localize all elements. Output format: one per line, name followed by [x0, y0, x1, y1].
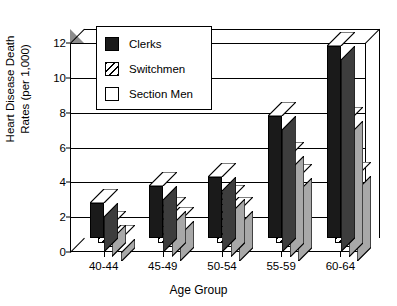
chart-container: Heart Disease Death Rates (per 1,000) 02…: [0, 0, 397, 306]
bar-side-face: [282, 116, 296, 252]
x-tick-label: 45-49: [148, 260, 177, 272]
bar-front-face: [268, 116, 282, 238]
y-tick-label: 2: [44, 211, 66, 223]
bar: [327, 46, 341, 238]
bar: [149, 186, 163, 238]
bar: [268, 116, 282, 238]
legend-label-section-men: Section Men: [129, 88, 193, 100]
x-axis-title: Age Group: [0, 283, 397, 297]
bar-top-face: [327, 32, 355, 46]
y-tick-label: 0: [44, 246, 66, 258]
bar-top-face: [268, 102, 296, 116]
y-axis-title-line1: Heart Disease Death: [3, 4, 18, 174]
legend-item-section-men: Section Men: [105, 85, 193, 103]
x-tick-mark: [163, 252, 164, 257]
x-tick-mark: [281, 252, 282, 257]
bar-side-face: [341, 46, 355, 252]
y-tick-label: 10: [44, 72, 66, 84]
y-tick-label: 8: [44, 107, 66, 119]
bar: [90, 203, 104, 238]
legend-label-clerks: Clerks: [129, 38, 162, 50]
x-tick-label: 55-59: [266, 260, 295, 272]
legend-swatch-switchmen: [105, 62, 119, 76]
legend-label-switchmen: Switchmen: [129, 63, 185, 75]
bar: [208, 177, 222, 238]
legend: Clerks Switchmen Section Men: [96, 26, 212, 110]
frame-edge: [365, 29, 380, 44]
x-tick-mark: [104, 252, 105, 257]
gridline: [70, 148, 366, 149]
x-tick-mark: [340, 252, 341, 257]
bar-top-face: [208, 163, 236, 177]
gridline: [70, 113, 366, 114]
y-tick-label: 12: [44, 37, 66, 49]
x-tick-label: 50-54: [207, 260, 236, 272]
legend-item-clerks: Clerks: [105, 35, 162, 53]
bar-front-face: [327, 46, 341, 238]
bar-front-face: [90, 203, 104, 238]
bar-top-face: [90, 189, 118, 203]
frame-edge: [379, 29, 380, 238]
legend-swatch-clerks: [105, 37, 119, 51]
legend-swatch-section-men: [105, 87, 119, 101]
bar-top-face: [149, 172, 177, 186]
x-tick-label: 60-64: [326, 260, 355, 272]
y-tick-label: 6: [44, 142, 66, 154]
bar-front-face: [208, 177, 222, 238]
y-tick-label: 4: [44, 176, 66, 188]
y-axis: 024681012: [42, 0, 66, 306]
legend-item-switchmen: Switchmen: [105, 60, 185, 78]
y-axis-title-line2: Rates (per 1,000): [18, 4, 33, 174]
bar-front-face: [149, 186, 163, 238]
y-axis-title: Heart Disease Death Rates (per 1,000): [3, 4, 37, 174]
x-tick-mark: [222, 252, 223, 257]
x-tick-label: 40-44: [89, 260, 118, 272]
